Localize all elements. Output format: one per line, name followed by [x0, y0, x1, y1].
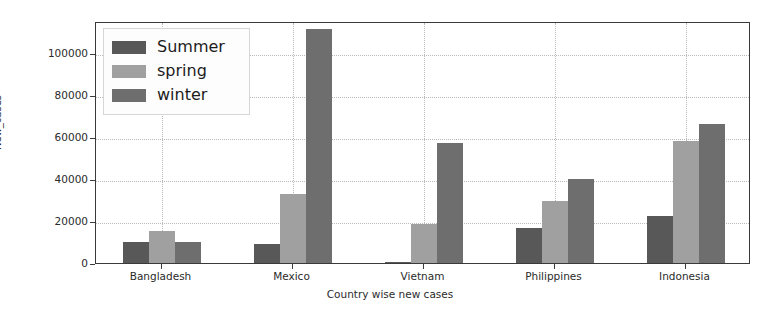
bar-indonesia-spring — [673, 141, 699, 263]
bar-chart-figure: New_cases 020000400006000080000100000 Ba… — [0, 0, 780, 320]
gridline — [96, 181, 749, 182]
bar-indonesia-winter — [699, 124, 725, 263]
legend-label: Summer — [157, 39, 225, 55]
x-tick-mark — [161, 264, 162, 269]
bar-philippines-summer — [516, 228, 542, 263]
bar-mexico-summer — [254, 244, 280, 263]
y-tick-mark — [90, 264, 95, 265]
bar-bangladesh-winter — [175, 242, 201, 263]
y-tick-label: 0 — [28, 258, 88, 268]
x-tick-mark — [292, 264, 293, 269]
bar-mexico-spring — [280, 194, 306, 263]
legend-item-winter[interactable]: winter — [112, 83, 241, 107]
bar-philippines-spring — [542, 201, 568, 263]
bar-bangladesh-spring — [149, 231, 175, 263]
x-tick-label: Indonesia — [625, 270, 745, 282]
legend-swatch-spring — [112, 65, 146, 78]
y-tick-label: 100000 — [28, 48, 88, 58]
x-tick-mark — [423, 264, 424, 269]
legend[interactable]: Summerspringwinter — [103, 28, 250, 115]
legend-item-summer[interactable]: Summer — [112, 35, 241, 59]
legend-swatch-winter — [112, 89, 146, 102]
y-axis-title: New_cases — [0, 95, 3, 150]
gridline — [96, 139, 749, 140]
legend-item-spring[interactable]: spring — [112, 59, 241, 83]
legend-label: spring — [157, 63, 207, 79]
x-tick-label: Mexico — [232, 270, 352, 282]
bar-vietnam-summer — [385, 262, 411, 263]
x-tick-mark — [554, 264, 555, 269]
legend-swatch-summer — [112, 41, 146, 54]
x-tick-mark — [685, 264, 686, 269]
y-tick-label: 20000 — [28, 216, 88, 226]
bar-indonesia-summer — [647, 216, 673, 263]
bar-vietnam-spring — [411, 224, 437, 263]
x-tick-label: Bangladesh — [101, 270, 221, 282]
x-tick-label: Philippines — [494, 270, 614, 282]
x-tick-label: Vietnam — [363, 270, 483, 282]
bar-vietnam-winter — [437, 143, 463, 263]
bar-bangladesh-summer — [123, 242, 149, 263]
bar-mexico-winter — [306, 29, 332, 263]
x-axis-title: Country wise new cases — [0, 288, 780, 300]
y-tick-label: 80000 — [28, 90, 88, 100]
bar-philippines-winter — [568, 179, 594, 263]
y-tick-label: 40000 — [28, 174, 88, 184]
y-tick-label: 60000 — [28, 132, 88, 142]
legend-label: winter — [157, 87, 207, 103]
